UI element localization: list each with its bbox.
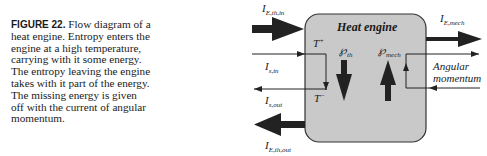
energy-out-arrow bbox=[254, 113, 305, 136]
label-entropy-in: Is,in bbox=[264, 60, 279, 75]
label-angular: Angular bbox=[432, 60, 470, 72]
energy-mech-arrow bbox=[426, 31, 482, 47]
label-energy-mech: IE,mech bbox=[439, 12, 465, 27]
heat-engine-diagram: Heat engine IE,th,in Is,in T+ Is,out T− … bbox=[0, 0, 487, 156]
box-title: Heat engine bbox=[336, 20, 398, 34]
energy-in-arrow bbox=[252, 17, 304, 41]
label-energy-thermal-in: IE,th,in bbox=[261, 2, 285, 17]
label-momentum: momentum bbox=[433, 72, 481, 84]
label-energy-thermal-out: IE,th,out bbox=[264, 139, 292, 154]
label-entropy-out: Is,out bbox=[264, 94, 283, 109]
